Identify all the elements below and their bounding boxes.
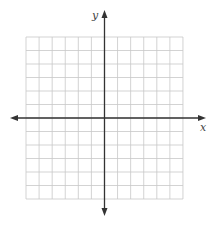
x-axis-left-arrow-icon [10, 115, 18, 121]
coordinate-plane: x y [0, 0, 212, 226]
y-axis-label: y [91, 9, 99, 22]
y-axis-bottom-arrow-icon [102, 208, 108, 216]
axes: x y [10, 9, 207, 216]
x-axis-label: x [200, 121, 207, 134]
y-axis-top-arrow-icon [102, 10, 108, 18]
